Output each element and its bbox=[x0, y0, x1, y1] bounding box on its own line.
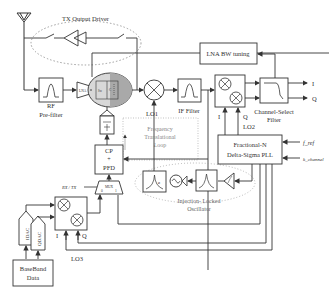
i-output-label: I bbox=[312, 80, 314, 87]
k-channel-label: k_channel bbox=[303, 157, 324, 162]
f-ref-label: f_ref bbox=[303, 140, 315, 146]
svg-text:Translational: Translational bbox=[144, 134, 176, 140]
prefilter-label: Pre-filter bbox=[39, 111, 63, 118]
svg-text:ø: ø bbox=[158, 180, 160, 185]
baseband-data-block bbox=[13, 260, 53, 286]
svg-text:PFD: PFD bbox=[103, 164, 115, 171]
svg-text:Data: Data bbox=[27, 274, 39, 281]
svg-text:IF Filter: IF Filter bbox=[178, 107, 200, 114]
svg-text:QDAC: QDAC bbox=[37, 231, 42, 246]
antenna-icon bbox=[17, 13, 31, 90]
svg-text:IDAC: IDAC bbox=[25, 227, 30, 240]
rf-prefilter-block bbox=[39, 78, 63, 102]
svg-text:Injection- Locked: Injection- Locked bbox=[178, 198, 221, 204]
svg-text:Delta-Sigma PLL: Delta-Sigma PLL bbox=[227, 151, 273, 158]
svg-text:Filter: Filter bbox=[267, 116, 282, 123]
fractional-n-pll-block bbox=[218, 135, 282, 164]
rx-tx-select-label: RX / TX bbox=[61, 185, 77, 190]
svg-text:Q: Q bbox=[243, 113, 248, 120]
svg-text:Q: Q bbox=[82, 232, 87, 239]
channel-select-filter-block bbox=[260, 78, 288, 103]
svg-text:Frequency: Frequency bbox=[147, 126, 172, 132]
transceiver-diagram: TX Output Driver RF Pre-filter LNA Sw C bbox=[0, 0, 329, 290]
tx-iq-mixer-block bbox=[55, 197, 87, 230]
svg-text:Fractional-N: Fractional-N bbox=[233, 141, 267, 148]
svg-text:I: I bbox=[218, 113, 220, 120]
tx-driver-amp-icon bbox=[64, 30, 78, 46]
svg-text:1: 1 bbox=[115, 189, 117, 193]
lo3-label: LO3 bbox=[71, 255, 83, 262]
svg-text:LNA: LNA bbox=[79, 89, 87, 93]
lo2-label: LO2 bbox=[243, 123, 255, 130]
lo1-label: LO1 bbox=[146, 110, 158, 117]
svg-text:Channel-Select: Channel-Select bbox=[254, 108, 294, 115]
svg-text:I: I bbox=[56, 232, 58, 239]
tx-driver-label: TX Output Driver bbox=[62, 15, 110, 22]
svg-text:CP: CP bbox=[105, 147, 113, 154]
if-filter-block bbox=[178, 79, 201, 102]
svg-text:BaseBand: BaseBand bbox=[20, 265, 47, 272]
rf-label: RF bbox=[47, 102, 55, 109]
svg-text:Oscillator: Oscillator bbox=[187, 206, 211, 212]
svg-text:0: 0 bbox=[101, 189, 103, 193]
svg-text:LNA BW tuning: LNA BW tuning bbox=[206, 50, 250, 57]
q-output-label: Q bbox=[312, 95, 317, 102]
svg-text:MUX: MUX bbox=[105, 185, 114, 189]
lna-tuning-circle: Sw C bbox=[88, 73, 132, 107]
svg-text:Loop: Loop bbox=[154, 142, 167, 148]
